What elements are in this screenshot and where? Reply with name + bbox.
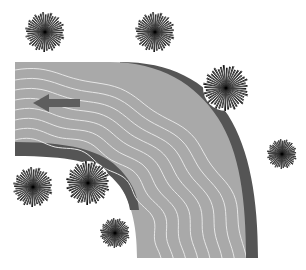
arrow-left-icon [46,99,80,107]
diagram-canvas [0,0,306,270]
tree-icon [13,167,53,207]
tree-icon [100,218,130,248]
tree-icon [135,12,175,52]
tree-icon [66,161,110,205]
tree-icon [203,65,249,111]
river-bend-diagram [0,0,306,270]
tree-icon [25,12,65,52]
tree-icon [267,139,297,169]
